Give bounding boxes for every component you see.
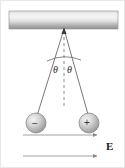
physics-diagram-pendulum-electric-field: θ θ − + E [0,0,125,168]
electric-field-lines [23,135,97,156]
angle-label-left: θ [53,65,58,75]
negative-charge-sphere [26,113,46,133]
charge-bobs [26,113,99,133]
ceiling-support [9,11,118,29]
electric-field-label: E [106,141,113,152]
angle-label-right: θ [67,65,72,75]
ceiling-bar [9,11,118,29]
pendulum-strings [36,29,89,119]
positive-charge-sphere [79,113,99,133]
left-string [36,29,64,119]
